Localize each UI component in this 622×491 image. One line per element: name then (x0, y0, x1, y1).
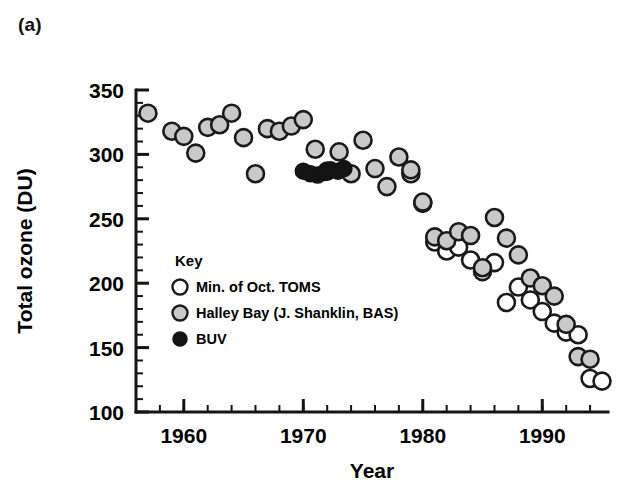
data-point (187, 145, 204, 162)
x-axis-tick-labels: 1960197019801990 (160, 424, 565, 447)
data-point (486, 209, 503, 226)
data-point (498, 230, 515, 247)
data-point (594, 373, 611, 390)
data-point (139, 105, 156, 122)
y-axis-ticks (136, 90, 149, 412)
data-point (336, 161, 352, 177)
legend-marker-gray-circle (173, 306, 188, 321)
data-point (223, 105, 240, 122)
data-point (331, 143, 348, 160)
legend-entry-label: Min. of Oct. TOMS (196, 279, 321, 295)
chart-legend: Key Min. of Oct. TOMSHalley Bay (J. Shan… (173, 252, 399, 347)
x-axis-title: Year (350, 459, 394, 482)
data-point (235, 129, 252, 146)
legend-entry: Min. of Oct. TOMS (173, 279, 321, 295)
data-point (247, 165, 264, 182)
data-point (474, 259, 491, 276)
data-point (414, 194, 431, 211)
x-axis-ticks (160, 399, 590, 412)
y-axis-title: Total ozone (DU) (13, 168, 36, 333)
data-point (582, 351, 599, 368)
data-point (498, 294, 515, 311)
legend-title: Key (175, 252, 203, 269)
y-tick-label: 150 (89, 337, 124, 360)
data-point (510, 246, 527, 263)
x-tick-label: 1990 (519, 424, 566, 447)
data-point (295, 111, 312, 128)
legend-entry-label: Halley Bay (J. Shanklin, BAS) (196, 305, 398, 321)
y-tick-label: 300 (89, 143, 124, 166)
data-point (355, 132, 372, 149)
y-tick-label: 250 (89, 208, 124, 231)
data-point (378, 178, 395, 195)
y-tick-label: 200 (89, 272, 124, 295)
data-point (175, 128, 192, 145)
legend-entry: BUV (173, 331, 227, 347)
ozone-scatter-plot: 100150200250300350 1960197019801990 Tota… (0, 0, 622, 491)
series-gray-circle (139, 105, 598, 368)
ozone-figure: (a) 100150200250300350 1960197019801990 … (0, 0, 622, 491)
data-point (307, 141, 324, 158)
y-tick-label: 100 (89, 401, 124, 424)
data-point (546, 288, 563, 305)
x-tick-label: 1960 (160, 424, 207, 447)
y-axis-tick-labels: 100150200250300350 (89, 79, 124, 424)
legend-entry: Halley Bay (J. Shanklin, BAS) (173, 305, 399, 321)
data-point (402, 161, 419, 178)
x-tick-label: 1980 (399, 424, 446, 447)
legend-entries: Min. of Oct. TOMSHalley Bay (J. Shanklin… (173, 279, 399, 347)
legend-entry-label: BUV (196, 331, 227, 347)
y-tick-label: 350 (89, 79, 124, 102)
data-point (462, 227, 479, 244)
x-tick-label: 1970 (280, 424, 327, 447)
legend-marker-filled-circle (173, 332, 187, 346)
data-point (558, 316, 575, 333)
data-point (366, 160, 383, 177)
legend-marker-open-circle (173, 280, 188, 295)
